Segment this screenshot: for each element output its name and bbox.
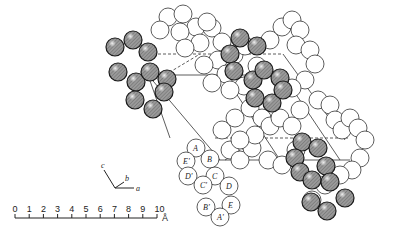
- sphere-highlight: [144, 100, 162, 118]
- open-sphere: [203, 74, 221, 92]
- scale-unit: Å: [162, 213, 168, 223]
- sphere-highlight: [318, 202, 336, 220]
- scale-tick-label: 2: [41, 204, 46, 214]
- sphere-label: A: [192, 144, 198, 153]
- sphere-label: E': [182, 157, 190, 166]
- sphere-highlight: [255, 61, 273, 79]
- sphere-label: D': [184, 172, 193, 181]
- sphere-label: D: [225, 182, 232, 191]
- sphere-highlight: [302, 193, 320, 211]
- axis-c-label: c: [101, 161, 105, 170]
- scale-tick-label: 0: [13, 204, 18, 214]
- sphere-label: A': [216, 213, 224, 222]
- scale-tick-label: 3: [55, 204, 60, 214]
- open-sphere: [195, 56, 213, 74]
- sphere-highlight: [124, 31, 142, 49]
- open-sphere: [171, 23, 189, 41]
- scale-tick-label: 4: [69, 204, 74, 214]
- sphere-highlight: [303, 171, 321, 189]
- sphere-label: C': [200, 181, 207, 190]
- open-sphere: [291, 101, 309, 119]
- scale-tick-label: 6: [98, 204, 103, 214]
- axis-c-line: [104, 170, 115, 188]
- open-sphere: [176, 39, 194, 57]
- sphere-highlight: [126, 91, 144, 109]
- sphere-highlight: [221, 45, 239, 63]
- sphere-highlight: [246, 89, 264, 107]
- sphere-highlight: [248, 37, 266, 55]
- scale-tick-label: 9: [140, 204, 145, 214]
- crystal-structure-diagram: ABCDEE'D'C'B'A' c b a 012345678910Å: [0, 0, 397, 235]
- sphere-highlight: [225, 62, 243, 80]
- open-sphere: [306, 55, 324, 73]
- sphere-highlight: [293, 133, 311, 151]
- sphere-label: E: [227, 201, 233, 210]
- sphere-highlight: [106, 38, 124, 56]
- axis-b-line: [115, 182, 124, 188]
- open-sphere: [151, 21, 169, 39]
- scale-bar: 012345678910Å: [13, 204, 169, 223]
- scale-tick-label: 1: [27, 204, 32, 214]
- open-sphere: [198, 13, 216, 31]
- scale-tick-label: 7: [112, 204, 117, 214]
- open-sphere: [174, 5, 192, 23]
- diagram-canvas: ABCDEE'D'C'B'A' c b a 012345678910Å: [0, 0, 397, 235]
- open-sphere: [231, 131, 249, 149]
- scale-tick-label: 8: [126, 204, 131, 214]
- sphere-label: B': [203, 203, 210, 212]
- open-sphere: [283, 117, 301, 135]
- sphere-highlight: [317, 157, 335, 175]
- sphere-label: B: [207, 155, 212, 164]
- sphere-highlight: [139, 43, 157, 61]
- sphere-highlight: [321, 173, 339, 191]
- axis-b-label: b: [125, 174, 129, 183]
- sphere-highlight: [155, 83, 173, 101]
- sphere-highlight: [141, 63, 159, 81]
- sphere-highlight: [309, 139, 327, 157]
- open-sphere: [226, 109, 244, 127]
- axis-a-label: a: [136, 184, 140, 193]
- sphere-label: C: [212, 172, 218, 181]
- sphere-highlight: [274, 81, 292, 99]
- sphere-highlight: [109, 63, 127, 81]
- open-sphere: [221, 81, 239, 99]
- open-sphere: [356, 131, 374, 149]
- sphere-highlight: [336, 189, 354, 207]
- sphere-highlight: [231, 29, 249, 47]
- scale-tick-label: 5: [84, 204, 89, 214]
- axes-indicator: [104, 170, 134, 188]
